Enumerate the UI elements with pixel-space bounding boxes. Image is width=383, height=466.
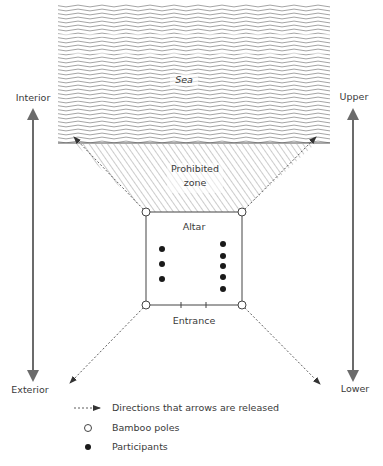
interior-label: Interior bbox=[16, 92, 51, 103]
prohibited-zone-label-2: zone bbox=[184, 177, 207, 188]
legend: Directions that arrows are released Bamb… bbox=[74, 402, 279, 452]
entrance-label: Entrance bbox=[173, 315, 216, 326]
sea-label: Sea bbox=[175, 74, 193, 85]
participant-dot bbox=[220, 286, 226, 292]
prohibited-zone: Prohibited zone bbox=[75, 144, 315, 212]
ritual-layout-diagram: Sea Prohibited zone Altar Entrance bbox=[0, 0, 383, 466]
exterior-label: Exterior bbox=[11, 384, 49, 395]
legend-label: Directions that arrows are released bbox=[112, 402, 279, 413]
bamboo-pole bbox=[238, 301, 246, 309]
bamboo-pole bbox=[142, 208, 150, 216]
arrow-direction-lower-left bbox=[70, 305, 146, 383]
filled-circle-icon bbox=[85, 444, 91, 450]
legend-label: Bamboo poles bbox=[112, 422, 180, 433]
participant-dot bbox=[220, 274, 226, 280]
participant-dot bbox=[220, 263, 226, 269]
bamboo-pole bbox=[142, 301, 150, 309]
upper-label: Upper bbox=[340, 91, 369, 102]
upper-lower-axis: Upper Lower bbox=[340, 91, 370, 394]
open-circle-icon bbox=[85, 425, 92, 432]
altar-enclosure: Altar Entrance bbox=[142, 208, 246, 326]
prohibited-zone-label-1: Prohibited bbox=[171, 163, 219, 174]
lower-label: Lower bbox=[341, 383, 370, 394]
participant-dot bbox=[220, 241, 226, 247]
participant-dot bbox=[159, 246, 165, 252]
bamboo-pole bbox=[238, 208, 246, 216]
interior-exterior-axis: Interior Exterior bbox=[11, 92, 50, 395]
participant-dot bbox=[159, 261, 165, 267]
legend-item: Participants bbox=[85, 441, 168, 452]
legend-label: Participants bbox=[112, 441, 168, 452]
legend-item: Directions that arrows are released bbox=[74, 402, 279, 413]
altar-label: Altar bbox=[183, 221, 206, 232]
participant-dot bbox=[159, 276, 165, 282]
participant-dot bbox=[220, 253, 226, 259]
arrow-direction-lower-right bbox=[242, 305, 320, 384]
sea-region: Sea bbox=[58, 4, 330, 143]
legend-item: Bamboo poles bbox=[85, 422, 180, 433]
